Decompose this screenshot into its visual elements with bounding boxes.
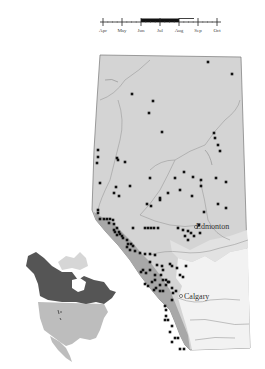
month-label: Jul [157, 28, 163, 33]
usa-region [38, 302, 108, 346]
record-dot [165, 315, 168, 318]
record-dot [112, 219, 115, 222]
record-dot [152, 100, 155, 103]
record-dot [207, 61, 210, 64]
record-dot [176, 267, 179, 270]
month-label: May [117, 28, 127, 33]
record-dot [103, 218, 106, 221]
record-dot [187, 239, 190, 242]
record-dot [99, 218, 102, 221]
record-dot [179, 348, 182, 351]
record-dot [162, 279, 165, 282]
record-dot [161, 265, 164, 268]
record-dot [199, 232, 202, 235]
record-dot [213, 132, 216, 135]
month-label: Sep [194, 28, 202, 33]
record-dot [151, 281, 154, 284]
edmonton-label: Edmonton [196, 222, 229, 231]
record-dot [200, 185, 203, 188]
record-dot [108, 222, 111, 225]
record-dot [160, 274, 163, 277]
record-dot [149, 253, 152, 256]
record-dot [109, 218, 112, 221]
record-dot [113, 192, 116, 195]
record-dot [148, 112, 151, 115]
record-dot [154, 254, 157, 257]
record-dot [175, 290, 178, 293]
record-dot [116, 234, 119, 237]
record-dot [162, 290, 165, 293]
record-dot [200, 179, 203, 182]
record-dot [106, 218, 109, 221]
record-dot [124, 161, 127, 164]
north-america-inset [26, 252, 116, 362]
record-dot [162, 269, 165, 272]
record-dot [97, 156, 100, 159]
record-dot [177, 227, 180, 230]
record-dot [149, 269, 152, 272]
record-dot [165, 284, 168, 287]
record-dot [231, 73, 234, 76]
record-dot [97, 149, 100, 152]
record-dot [96, 162, 99, 165]
record-dot [144, 227, 147, 230]
record-dot [174, 337, 177, 340]
record-dot [183, 171, 186, 174]
record-dot [215, 177, 218, 180]
record-dot [139, 252, 142, 255]
record-dot [150, 227, 153, 230]
record-dot [117, 159, 120, 162]
record-dot [219, 150, 222, 153]
record-dot [154, 279, 157, 282]
record-dot [184, 235, 187, 238]
record-dot [164, 305, 167, 308]
record-dot [159, 290, 162, 293]
record-dot [191, 195, 194, 198]
record-dot [156, 264, 159, 267]
record-dot [167, 192, 170, 195]
alberta-map: Edmonton Calgary [92, 55, 250, 350]
figure: AprMayJunJulAugSepOct [0, 0, 265, 369]
record-dot [118, 195, 121, 198]
record-dot [127, 243, 130, 246]
record-dot [145, 272, 148, 275]
record-dot [140, 271, 143, 274]
record-dot [114, 231, 117, 234]
record-dot [164, 319, 167, 322]
record-dot [217, 144, 220, 147]
record-dot [147, 285, 150, 288]
record-dot [225, 181, 228, 184]
record-dot [179, 189, 182, 192]
record-dot [113, 223, 116, 226]
record-dot [97, 212, 100, 215]
record-dot [171, 265, 174, 268]
record-dot [217, 203, 220, 206]
record-dot [153, 227, 156, 230]
record-dot [132, 227, 135, 230]
record-dot [169, 331, 172, 334]
record-dot [161, 131, 164, 134]
arctic-islands [58, 252, 88, 270]
record-dot [214, 137, 217, 140]
record-dot [203, 211, 206, 214]
record-dot [192, 176, 195, 179]
record-dot [99, 182, 102, 185]
record-dot [149, 261, 152, 264]
record-dot [190, 232, 193, 235]
record-dot [159, 199, 162, 202]
record-dot [126, 246, 129, 249]
record-dot [118, 231, 121, 234]
record-dot [147, 227, 150, 230]
record-dot [165, 309, 168, 312]
record-dot [150, 205, 153, 208]
record-dot [154, 274, 157, 277]
record-dot [129, 249, 132, 252]
record-dot [182, 276, 185, 279]
record-dot [122, 237, 125, 240]
record-dot [174, 177, 177, 180]
record-dot [179, 274, 182, 277]
record-dot [115, 186, 118, 189]
calgary-label: Calgary [184, 292, 209, 301]
record-dot [116, 227, 119, 230]
record-dot [97, 209, 100, 212]
